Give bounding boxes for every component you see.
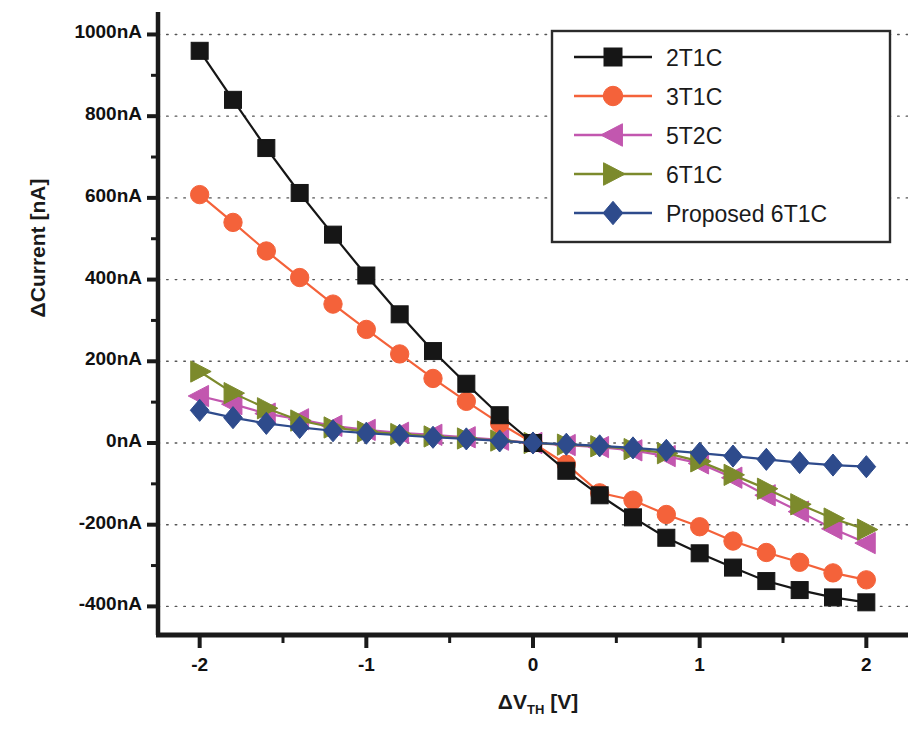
x-tick-label: 0 — [493, 654, 573, 676]
y-tick-label: 800nA — [85, 103, 142, 125]
x-tick-label: -1 — [326, 654, 406, 676]
data-point-marker — [457, 392, 475, 410]
x-axis-title-unit: [V] — [544, 690, 578, 713]
x-axis-title: ΔVTH [V] — [408, 690, 668, 717]
data-point-marker — [603, 86, 622, 105]
y-tick-label: 1000nA — [74, 21, 142, 43]
x-tick-label: 1 — [660, 654, 740, 676]
data-point-marker — [390, 345, 408, 363]
data-point-marker — [225, 91, 242, 108]
data-point-marker — [290, 268, 308, 286]
y-tick-label: 0nA — [106, 430, 142, 452]
data-point-marker — [624, 491, 642, 509]
data-point-marker — [491, 407, 508, 424]
x-axis-title-subscript: TH — [527, 702, 544, 717]
data-point-marker — [391, 306, 408, 323]
data-point-marker — [724, 532, 742, 550]
legend: 2T1C3T1C5T2C6T1CProposed 6T1C — [552, 31, 890, 242]
data-point-marker — [690, 518, 708, 536]
data-point-marker — [791, 582, 808, 599]
data-point-marker — [591, 487, 608, 504]
data-point-marker — [424, 369, 442, 387]
data-point-marker — [224, 213, 242, 231]
legend-label: 3T1C — [666, 84, 722, 110]
data-point-marker — [824, 454, 843, 476]
y-tick-label: -400nA — [79, 593, 142, 615]
data-point-marker — [758, 573, 775, 590]
data-point-marker — [458, 375, 475, 392]
data-point-marker — [790, 452, 809, 474]
y-tick-label: 200nA — [85, 348, 142, 370]
legend-label: 6T1C — [666, 162, 722, 188]
data-point-marker — [190, 185, 208, 203]
data-point-marker — [191, 361, 211, 382]
data-point-marker — [757, 448, 776, 470]
y-tick-label: 600nA — [85, 185, 142, 207]
y-tick-label: 400nA — [85, 267, 142, 289]
data-point-marker — [604, 48, 622, 66]
chart-figure: 2T1C3T1C5T2C6T1CProposed 6T1C 1000nA800n… — [0, 0, 908, 741]
data-point-marker — [358, 267, 375, 284]
data-point-marker — [658, 529, 675, 546]
y-axis-title: ΔCurrent [nA] — [26, 148, 50, 348]
series-3t1c — [190, 185, 875, 589]
data-point-marker — [725, 559, 742, 576]
data-point-marker — [825, 589, 842, 606]
x-tick-label: 2 — [826, 654, 906, 676]
data-point-marker — [257, 242, 275, 260]
legend-label: Proposed 6T1C — [666, 201, 827, 227]
data-point-marker — [657, 505, 675, 523]
x-tick-label: -2 — [160, 654, 240, 676]
data-point-marker — [357, 320, 375, 338]
x-axis-title-main: ΔV — [498, 690, 527, 713]
data-point-marker — [724, 445, 743, 467]
series-line — [200, 195, 867, 580]
data-point-marker — [824, 564, 842, 582]
legend-label: 5T2C — [666, 123, 722, 149]
data-point-marker — [291, 184, 308, 201]
data-point-marker — [191, 42, 208, 59]
data-point-marker — [857, 456, 876, 478]
data-point-marker — [858, 594, 875, 611]
data-point-marker — [857, 571, 875, 589]
data-point-marker — [425, 343, 442, 360]
data-point-marker — [324, 295, 342, 313]
data-point-marker — [757, 543, 775, 561]
data-point-marker — [625, 509, 642, 526]
y-tick-label: -200nA — [79, 512, 142, 534]
legend-entry-proposed-6t1c: Proposed 6T1C — [574, 201, 827, 227]
data-point-marker — [790, 553, 808, 571]
data-point-marker — [325, 226, 342, 243]
data-point-marker — [258, 140, 275, 157]
data-point-marker — [558, 462, 575, 479]
legend-label: 2T1C — [666, 45, 722, 71]
data-point-marker — [691, 545, 708, 562]
